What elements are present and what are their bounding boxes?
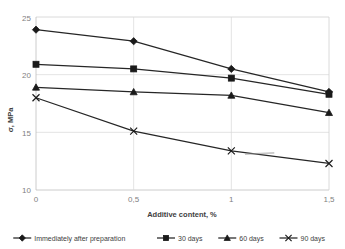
chart-container: 25 20 15 10 0 0,5 1 1,5 σ, MPa Additive …	[0, 0, 345, 249]
y-tick-label-10: 10	[22, 186, 31, 195]
x-axis-tick-labels: 0 0,5 1 1,5	[34, 195, 335, 204]
y-axis-tick-labels: 25 20 15 10	[22, 14, 31, 196]
x-tick-label-1-5: 1,5	[323, 195, 335, 204]
chart-legend: Immediately after preparation30 days60 d…	[13, 235, 325, 243]
y-tick-label-25: 25	[22, 14, 31, 23]
legend-item-label[interactable]: 90 days	[301, 235, 326, 243]
data-point	[33, 61, 39, 67]
legend-marker-icon	[19, 235, 25, 241]
y-tick-label-15: 15	[22, 129, 31, 138]
data-point	[326, 91, 332, 97]
x-tick-label-1: 1	[229, 195, 234, 204]
x-tick-label-0: 0	[34, 195, 39, 204]
y-tick-label-20: 20	[22, 71, 31, 80]
data-point	[131, 66, 137, 72]
x-axis-title: Additive content, %	[147, 210, 217, 219]
legend-item-label[interactable]: Immediately after preparation	[34, 235, 125, 243]
legend-item-label[interactable]: 60 days	[239, 235, 264, 243]
legend-marker-icon	[163, 235, 168, 240]
data-point	[228, 75, 234, 81]
legend-item-label[interactable]: 30 days	[178, 235, 203, 243]
x-tick-label-0-5: 0,5	[128, 195, 140, 204]
plot-area-background	[36, 17, 329, 190]
line-chart: 25 20 15 10 0 0,5 1 1,5 σ, MPa Additive …	[0, 0, 345, 249]
y-axis-title: σ, MPa	[6, 107, 15, 133]
